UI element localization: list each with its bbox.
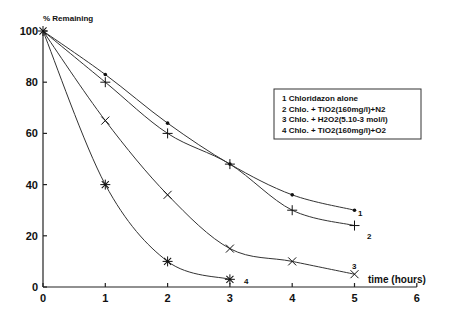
plus-marker-icon — [225, 159, 235, 169]
y-tick-label: 60 — [26, 127, 38, 139]
x-tick-label: 1 — [102, 292, 108, 304]
curves — [43, 31, 355, 279]
legend-entry: 4 Chlo. + TiO2(160mg/l)+O2 — [282, 126, 386, 135]
x-tick-label: 5 — [351, 292, 357, 304]
series-label-1: 1 — [358, 209, 363, 218]
axes: 0123456020406080100% Remainingtime (hour… — [20, 14, 426, 304]
dot-marker-icon — [290, 193, 294, 197]
dot-marker-icon — [166, 121, 170, 125]
x-tick-label: 4 — [289, 292, 296, 304]
y-tick-label: 20 — [26, 230, 38, 242]
series-curve-4 — [43, 31, 230, 279]
dot-marker-icon — [104, 73, 108, 77]
cross-marker-icon — [288, 257, 296, 265]
y-tick-label: 40 — [26, 179, 38, 191]
cross-marker-icon — [101, 117, 109, 125]
y-tick-label: 80 — [26, 76, 38, 88]
y-tick-label: 100 — [20, 25, 38, 37]
cross-marker-icon — [226, 245, 234, 253]
x-tick-label: 0 — [40, 292, 46, 304]
dot-marker-icon — [353, 208, 357, 212]
asterisk-marker-icon — [100, 180, 110, 190]
x-tick-label: 3 — [227, 292, 233, 304]
series-curve-3 — [43, 31, 355, 274]
legend: 1 Chloridazon alone2 Chlo. + TiO2(160mg/… — [274, 89, 421, 139]
cross-marker-icon — [164, 191, 172, 199]
x-axis-title: time (hours) — [368, 274, 426, 285]
legend-entry: 3 Chlo. + H2O2(5.10-3 mol/l) — [282, 115, 388, 124]
x-tick-label: 6 — [414, 292, 420, 304]
legend-entry: 1 Chloridazon alone — [282, 94, 359, 103]
series-label-2: 2 — [367, 232, 372, 241]
plus-marker-icon — [287, 205, 297, 215]
legend-entry: 2 Chlo. + TiO2(160mg/l)+N2 — [282, 105, 386, 114]
asterisk-marker-icon — [163, 256, 173, 266]
plus-marker-icon — [163, 128, 173, 138]
series-label-4: 4 — [244, 277, 249, 286]
series-label-3: 3 — [352, 262, 357, 271]
y-tick-label: 0 — [32, 281, 38, 293]
y-axis-title: % Remaining — [43, 14, 93, 23]
plus-marker-icon — [350, 221, 360, 231]
x-tick-label: 2 — [165, 292, 171, 304]
markers — [38, 26, 360, 284]
cross-marker-icon — [351, 270, 359, 278]
series-labels: 1234 — [244, 209, 372, 286]
asterisk-marker-icon — [225, 274, 235, 284]
asterisk-marker-icon — [38, 26, 48, 36]
chart: 0123456020406080100% Remainingtime (hour… — [0, 0, 450, 324]
